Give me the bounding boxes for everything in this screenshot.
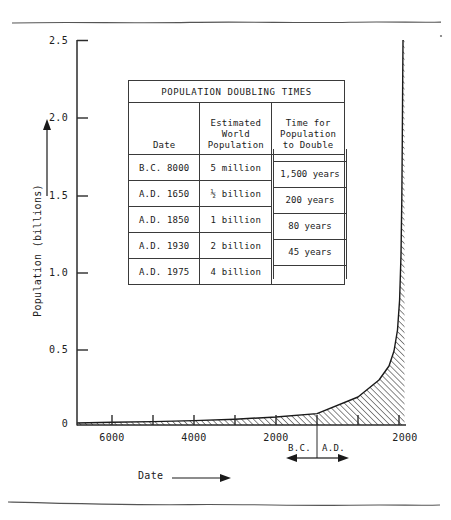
doubling-tail-spacer bbox=[274, 266, 346, 279]
table-title: POPULATION DOUBLING TIMES bbox=[129, 81, 345, 103]
column-header-date-text: Date bbox=[129, 140, 199, 151]
era-label-ad: A.D. bbox=[322, 443, 345, 453]
cell-doubling-time: 45 years bbox=[274, 240, 346, 266]
column-header-population-line3: Population bbox=[200, 140, 271, 151]
cell-date: A.D. 1850 bbox=[129, 207, 200, 233]
cell-population: ½ billion bbox=[200, 181, 272, 207]
page-edge-top bbox=[12, 22, 441, 23]
era-label-bc: B.C. bbox=[288, 443, 311, 453]
y-tick-label-2_5: 2.5 bbox=[28, 35, 68, 46]
y-axis-direction-arrow bbox=[43, 119, 51, 196]
cell-date: A.D. 1930 bbox=[129, 233, 200, 259]
y-tick-label-0_5: 0.5 bbox=[28, 344, 68, 355]
column-header-population-line1: Estimated bbox=[200, 118, 271, 129]
y-tick-label-2_0: 2.0 bbox=[28, 112, 68, 123]
y-axis-title: Population (billions) bbox=[32, 181, 43, 321]
cell-date: B.C. 8000 bbox=[129, 155, 200, 181]
x-tick-label-6000: 6000 bbox=[88, 432, 136, 443]
cell-doubling-time: 1,500 years bbox=[274, 162, 346, 188]
x-axis-title: Date bbox=[138, 470, 163, 481]
cell-population: 1 billion bbox=[200, 207, 272, 233]
population-growth-figure: 2.5 2.0 1.5 1.0 0.5 0 Population (billio… bbox=[0, 0, 451, 520]
table-title-row: POPULATION DOUBLING TIMES bbox=[129, 81, 345, 103]
table-header-row: Date Estimated World Population Time for… bbox=[129, 103, 345, 155]
cell-population: 4 billion bbox=[200, 259, 272, 285]
page-edge-bottom bbox=[8, 502, 440, 505]
y-tick-label-0: 0 bbox=[28, 418, 68, 429]
column-header-doubling-line2: Population bbox=[272, 129, 344, 140]
cell-date: A.D. 1975 bbox=[129, 259, 200, 285]
scan-speck bbox=[440, 35, 442, 37]
cell-population: 2 billion bbox=[200, 233, 272, 259]
cell-population: 5 million bbox=[200, 155, 272, 181]
column-header-population-line2: World bbox=[200, 129, 271, 140]
cell-date: A.D. 1650 bbox=[129, 181, 200, 207]
x-axis-direction-arrow bbox=[172, 474, 231, 482]
column-header-population: Estimated World Population bbox=[200, 103, 272, 155]
column-header-date: Date bbox=[129, 103, 200, 155]
x-tick-label-2000-ad: 2000 bbox=[381, 432, 429, 443]
doubling-times-column: 1,500 years 200 years 80 years 45 years bbox=[273, 149, 347, 279]
column-header-doubling-line1: Time for bbox=[272, 118, 344, 129]
column-header-doubling: Time for Population to Double bbox=[272, 103, 345, 155]
doubling-offset-spacer bbox=[274, 149, 346, 162]
x-tick-label-4000: 4000 bbox=[170, 432, 218, 443]
cell-doubling-time: 200 years bbox=[274, 188, 346, 214]
cell-doubling-time: 80 years bbox=[274, 214, 346, 240]
y-tick-marks bbox=[77, 118, 88, 350]
x-tick-label-2000-bc: 2000 bbox=[252, 432, 300, 443]
